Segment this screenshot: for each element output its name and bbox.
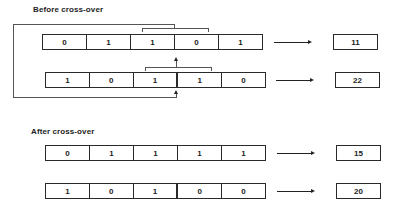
swap-connector-outer-top xyxy=(13,24,175,25)
gene-cell: 0 xyxy=(222,73,265,87)
gene-cell: 0 xyxy=(90,73,134,87)
up-arrow-icon xyxy=(174,57,178,61)
swap-connector-outer-left xyxy=(13,24,14,98)
gene-cell: 1 xyxy=(131,35,175,49)
gene-cell: 1 xyxy=(219,35,262,49)
offspring2-fitness: 20 xyxy=(336,183,381,199)
gene-cell: 1 xyxy=(46,184,90,198)
crossover-bracket-top-right-tick xyxy=(208,28,209,32)
gene-cell: 0 xyxy=(43,35,87,49)
crossover-point-stem xyxy=(176,60,177,67)
gene-cell: 0 xyxy=(178,184,222,198)
gene-cell: 1 xyxy=(46,73,90,87)
gene-cell: 0 xyxy=(90,184,134,198)
gene-cell: 0 xyxy=(222,184,265,198)
crossover-bracket-bottom-right-tick xyxy=(211,67,212,71)
parent1-fitness: 11 xyxy=(333,34,378,50)
after-crossover-title: After cross-over xyxy=(31,127,94,136)
crossover-bracket-top xyxy=(142,28,209,29)
before-crossover-title: Before cross-over xyxy=(33,5,103,14)
parent2-fitness: 22 xyxy=(335,72,380,88)
offspring1-chromosome: 0 1 1 1 1 xyxy=(45,145,266,161)
crossover-bracket-top-left-tick xyxy=(142,28,143,32)
gene-cell: 1 xyxy=(90,146,134,160)
gene-cell: 1 xyxy=(134,184,179,198)
gene-cell: 1 xyxy=(222,146,265,160)
right-arrow-icon xyxy=(277,191,313,192)
gene-cell: 0 xyxy=(46,146,90,160)
parent2-chromosome: 1 0 1 1 0 xyxy=(45,72,266,88)
gene-cell: 1 xyxy=(87,35,131,49)
gene-cell: 1 xyxy=(178,73,222,87)
crossover-bracket-bottom-left-tick xyxy=(145,67,146,71)
right-arrow-icon xyxy=(276,80,312,81)
gene-cell: 1 xyxy=(178,146,222,160)
offspring1-fitness: 15 xyxy=(336,145,381,161)
crossover-bracket-bottom xyxy=(145,67,212,68)
right-arrow-icon xyxy=(274,42,310,43)
gene-cell: 0 xyxy=(175,35,219,49)
offspring2-chromosome: 1 0 1 0 0 xyxy=(45,183,266,199)
swap-connector-outer-bottom xyxy=(13,97,177,98)
gene-cell: 1 xyxy=(134,73,179,87)
parent1-chromosome: 0 1 1 0 1 xyxy=(42,34,263,50)
right-arrow-icon xyxy=(277,153,313,154)
gene-cell: 1 xyxy=(134,146,178,160)
up-arrow-icon xyxy=(174,90,178,94)
